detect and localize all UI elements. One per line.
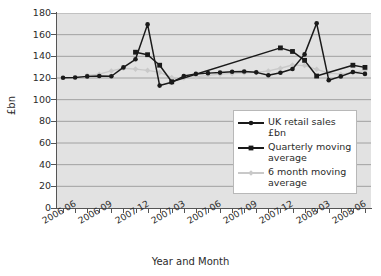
legend-item: 6 month moving average	[238, 166, 352, 188]
y-axis-tick-label: 0	[26, 203, 51, 213]
y-axis-tick	[51, 143, 57, 144]
y-axis-tick-label: 160	[26, 30, 51, 40]
y-axis-tick-label: 180	[26, 8, 51, 18]
x-axis-title: Year and Month	[0, 256, 381, 267]
legend-marker-square-icon	[238, 142, 264, 153]
x-axis-tick	[293, 208, 294, 213]
y-axis-tick	[51, 78, 57, 79]
y-axis-tick-label: 60	[26, 138, 51, 148]
y-axis-tick	[51, 121, 57, 122]
y-axis-tick-label: 140	[26, 51, 51, 61]
y-axis-tick-label: 120	[26, 73, 51, 83]
legend-label: 6 month moving average	[268, 166, 352, 188]
x-axis-tick	[111, 208, 112, 213]
legend-label: UK retail sales £bn	[268, 116, 352, 138]
chart-legend: UK retail sales £bnQuarterly moving aver…	[233, 110, 357, 194]
y-axis-title: £bn	[6, 86, 17, 126]
legend-marker-circle-icon	[238, 117, 264, 128]
y-axis-tick-label: 40	[26, 160, 51, 170]
y-axis-tick-label: 80	[26, 116, 51, 126]
y-axis-tick-label: 100	[26, 95, 51, 105]
legend-marker-diamond-icon	[238, 167, 264, 178]
y-axis-tick	[51, 13, 57, 14]
legend-item: UK retail sales £bn	[238, 116, 352, 138]
y-axis-tick	[51, 186, 57, 187]
chart-figure: 020406080100120140160180 2006 062006 092…	[0, 0, 381, 276]
y-axis-tick	[51, 34, 57, 35]
y-axis-tick	[51, 164, 57, 165]
y-axis-tick	[51, 99, 57, 100]
x-axis-tick	[256, 208, 257, 213]
x-axis-tick	[75, 208, 76, 213]
y-axis-tick-label: 20	[26, 181, 51, 191]
legend-item: Quarterly moving average	[238, 141, 352, 163]
legend-label: Quarterly moving average	[268, 141, 352, 163]
y-axis-tick	[51, 56, 57, 57]
x-axis-tick	[220, 208, 221, 213]
y-axis-line	[56, 12, 57, 209]
